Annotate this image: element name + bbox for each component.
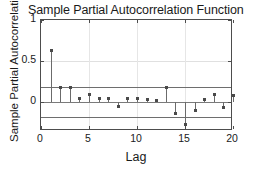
data-point-marker[interactable] xyxy=(107,97,110,100)
y-axis-tick-label: 0 xyxy=(14,94,36,106)
lower-confidence-bound xyxy=(41,117,231,118)
stem-line xyxy=(60,87,61,102)
data-point-marker[interactable] xyxy=(146,98,149,101)
y-axis-tick xyxy=(41,102,44,103)
y-axis-tick-label: 0.5 xyxy=(14,53,36,65)
x-axis-tick xyxy=(185,126,186,129)
x-axis-tick xyxy=(41,126,42,129)
stem-line xyxy=(51,50,52,102)
x-axis-tick-label: 0 xyxy=(28,132,52,144)
figure-canvas: Sample Partial Autocorrelation Function … xyxy=(0,0,254,171)
page-title: Sample Partial Autocorrelation Function xyxy=(28,3,252,17)
plot-area xyxy=(40,19,232,130)
x-axis-tick-top xyxy=(185,20,186,23)
data-point-marker[interactable] xyxy=(78,97,81,100)
data-point-marker[interactable] xyxy=(222,106,225,109)
x-axis-tick-label: 10 xyxy=(124,132,148,144)
data-point-marker[interactable] xyxy=(69,86,72,89)
zero-baseline xyxy=(41,102,231,103)
data-point-marker[interactable] xyxy=(155,99,158,102)
data-point-marker[interactable] xyxy=(59,86,62,89)
data-point-marker[interactable] xyxy=(203,98,206,101)
x-axis-tick-top xyxy=(233,20,234,23)
data-point-marker[interactable] xyxy=(126,97,129,100)
data-point-marker[interactable] xyxy=(213,93,216,96)
y-axis-tick xyxy=(41,61,44,62)
data-point-marker[interactable] xyxy=(174,112,177,115)
stem-line xyxy=(70,87,71,102)
x-axis-tick xyxy=(137,126,138,129)
data-point-marker[interactable] xyxy=(165,86,168,89)
x-axis-tick-label: 15 xyxy=(172,132,196,144)
y-axis-tick-right xyxy=(228,61,231,62)
x-axis-tick-top xyxy=(89,20,90,23)
stem-line xyxy=(185,102,186,124)
data-point-marker[interactable] xyxy=(232,94,235,97)
x-axis-tick-label: 20 xyxy=(220,132,244,144)
y-axis-tick-label: 1 xyxy=(14,12,36,24)
data-point-marker[interactable] xyxy=(88,93,91,96)
gridline-horizontal xyxy=(41,61,231,62)
x-axis-tick xyxy=(233,126,234,129)
y-axis-tick-right xyxy=(228,102,231,103)
gridline-vertical xyxy=(137,20,138,129)
data-point-marker[interactable] xyxy=(194,109,197,112)
data-point-marker[interactable] xyxy=(117,105,120,108)
data-point-marker[interactable] xyxy=(136,97,139,100)
gridline-vertical xyxy=(89,20,90,129)
y-axis-tick xyxy=(41,20,44,21)
data-point-marker[interactable] xyxy=(50,49,53,52)
data-point-marker[interactable] xyxy=(98,97,101,100)
stem-line xyxy=(166,87,167,102)
x-axis-tick-top xyxy=(137,20,138,23)
x-axis-tick-label: 5 xyxy=(76,132,100,144)
x-axis-tick xyxy=(89,126,90,129)
y-axis-tick-right xyxy=(228,20,231,21)
x-axis-label: Lag xyxy=(40,150,232,164)
